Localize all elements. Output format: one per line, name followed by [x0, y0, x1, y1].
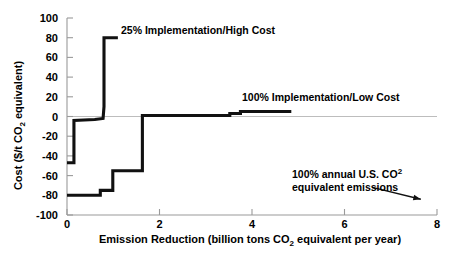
x-axis-title-pre: Emission Reduction (billion tons CO — [99, 233, 290, 245]
y-tick-label-neg20: -20 — [22, 131, 58, 142]
x-tick-marks — [67, 209, 437, 215]
y-axis-title-post: equivalent) — [12, 61, 24, 122]
x-tick-label-0: 0 — [55, 219, 79, 230]
annotation-us-emissions-line1: 100% annual U.S. CO — [292, 168, 398, 180]
y-tick-label-60: 60 — [22, 52, 58, 63]
x-axis-title: Emission Reduction (billion tons CO2 equ… — [60, 233, 440, 248]
x-axis-title-post: equivalent per year) — [294, 233, 401, 245]
annotation-high-cost-label: 25% Implementation/High Cost — [121, 24, 275, 37]
y-tick-label-neg80: -80 — [22, 190, 58, 201]
y-tick-marks — [67, 18, 73, 215]
x-tick-label-2: 2 — [148, 219, 172, 230]
annotation-us-emissions-superscript: 2 — [398, 167, 402, 176]
y-tick-label-40: 40 — [22, 72, 58, 83]
y-tick-label-80: 80 — [22, 33, 58, 44]
y-axis-title-pre: Cost ($/t CO — [12, 127, 24, 191]
series-high-cost-curve — [67, 38, 118, 163]
y-tick-label-100: 100 — [22, 13, 58, 24]
x-tick-label-8: 8 — [425, 219, 449, 230]
x-tick-label-6: 6 — [333, 219, 357, 230]
series-low-cost-curve — [67, 112, 291, 196]
chart-figure: 100 80 60 40 20 0 -20 -40 -60 -80 -100 0… — [0, 0, 449, 257]
y-tick-label-20: 20 — [22, 92, 58, 103]
y-tick-label-neg60: -60 — [22, 171, 58, 182]
y-tick-label-neg100: -100 — [22, 210, 58, 221]
y-axis-title-subscript: 2 — [18, 122, 27, 126]
y-tick-label-0: 0 — [22, 112, 58, 123]
annotation-us-emissions-line2: equivalent emissions — [292, 181, 398, 193]
annotation-low-cost-label: 100% Implementation/Low Cost — [242, 91, 400, 104]
y-tick-label-neg40: -40 — [22, 151, 58, 162]
x-tick-label-4: 4 — [240, 219, 264, 230]
y-axis-title: Cost ($/t CO2 equivalent) — [12, 41, 27, 211]
annotation-us-emissions-label: 100% annual U.S. CO2equivalent emissions — [292, 165, 402, 194]
